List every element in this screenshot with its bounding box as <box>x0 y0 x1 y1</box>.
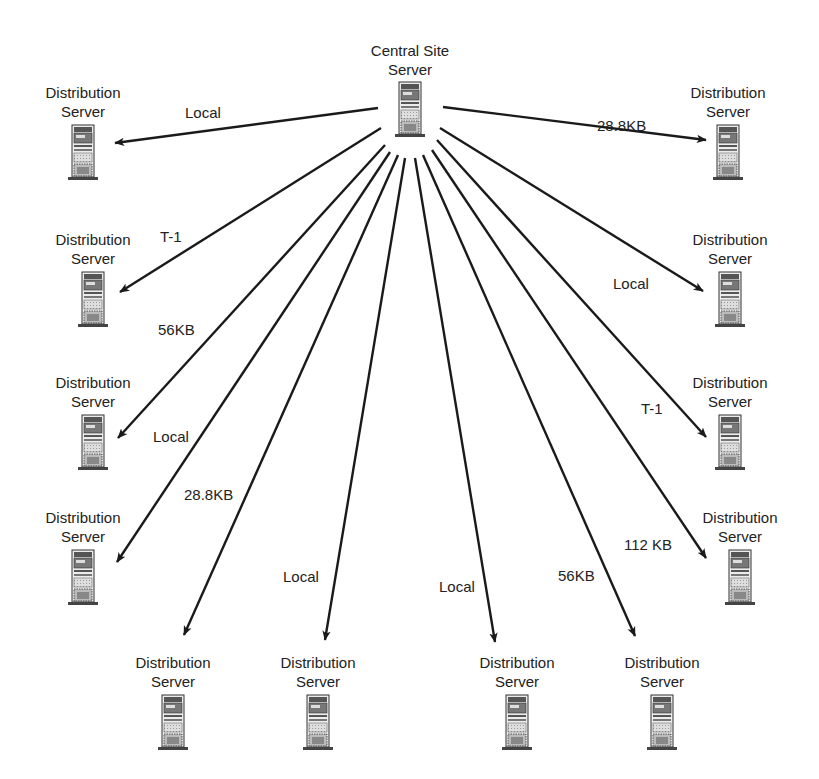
node-label-line2: Server <box>61 528 105 545</box>
node-label-line2: Server <box>151 673 195 690</box>
node-label-line2: Server <box>640 673 684 690</box>
server-tower-icon <box>68 125 98 180</box>
link-speed-label: Local <box>153 428 189 445</box>
node-label-line1: Distribution <box>692 374 767 391</box>
distribution-server-ds-bottom-2[interactable]: DistributionServer <box>280 654 355 750</box>
node-label-line1: Distribution <box>45 509 120 526</box>
link-arrow-ds-top-right <box>443 107 706 140</box>
network-diagram: Local28.8KBT-156KBLocal28.8KBLocalLocal5… <box>0 0 819 779</box>
server-tower-icon <box>502 695 532 750</box>
server-tower-icon <box>158 695 188 750</box>
server-tower-icon <box>303 695 333 750</box>
node-label-line2: Server <box>708 393 752 410</box>
link-label-layer: Local28.8KBT-156KBLocal28.8KBLocalLocal5… <box>153 104 672 595</box>
link-arrow-ds-right-4 <box>432 150 706 558</box>
node-label-line1: Distribution <box>55 374 130 391</box>
node-label-line1: Distribution <box>692 231 767 248</box>
distribution-server-ds-right-3[interactable]: DistributionServer <box>692 374 767 470</box>
server-tower-icon <box>715 415 745 470</box>
node-label-line2: Server <box>71 250 115 267</box>
link-speed-label: 56KB <box>158 321 195 338</box>
node-label-line2: Server <box>71 393 115 410</box>
node-label-line1: Distribution <box>45 84 120 101</box>
node-label-line1: Distribution <box>280 654 355 671</box>
distribution-server-ds-right-4[interactable]: DistributionServer <box>702 509 777 605</box>
link-arrow-ds-left-3 <box>118 145 385 438</box>
server-tower-icon <box>68 550 98 605</box>
central-site-server[interactable]: Central Site Server <box>371 42 449 137</box>
link-speed-label: T-1 <box>641 400 663 417</box>
server-tower-icon <box>725 550 755 605</box>
node-label-line2: Server <box>708 250 752 267</box>
link-speed-label: Local <box>185 104 221 121</box>
link-arrow-ds-left-2 <box>120 128 381 292</box>
distribution-server-ds-left-4[interactable]: DistributionServer <box>45 509 120 605</box>
link-arrow-ds-right-3 <box>437 140 706 437</box>
node-label-line2: Server <box>61 103 105 120</box>
node-label-line2: Server <box>718 528 762 545</box>
link-speed-label: Local <box>439 578 475 595</box>
hub-label-line2: Server <box>388 61 432 78</box>
distribution-server-ds-bottom-3[interactable]: DistributionServer <box>479 654 554 750</box>
link-speed-label: Local <box>283 568 319 585</box>
node-label-line1: Distribution <box>702 509 777 526</box>
link-arrow-ds-right-2 <box>440 128 703 291</box>
link-speed-label: 56KB <box>558 567 595 584</box>
node-label-line1: Distribution <box>624 654 699 671</box>
node-label-line1: Distribution <box>479 654 554 671</box>
node-label-line1: Distribution <box>690 84 765 101</box>
distribution-server-ds-top-right[interactable]: DistributionServer <box>690 84 765 180</box>
link-layer <box>115 107 706 642</box>
node-label-line2: Server <box>495 673 539 690</box>
link-speed-label: 112 KB <box>624 536 672 553</box>
node-label-line1: Distribution <box>55 231 130 248</box>
server-tower-icon <box>715 272 745 327</box>
link-speed-label: T-1 <box>160 228 182 245</box>
link-speed-label: 28.8KB <box>597 117 646 134</box>
distribution-server-ds-left-2[interactable]: DistributionServer <box>55 231 130 327</box>
link-arrow-ds-bottom-3 <box>415 158 495 642</box>
distribution-server-ds-right-2[interactable]: DistributionServer <box>692 231 767 327</box>
link-speed-label: 28.8KB <box>184 486 233 503</box>
node-label-line2: Server <box>296 673 340 690</box>
distribution-server-ds-bottom-4[interactable]: DistributionServer <box>624 654 699 750</box>
distribution-server-ds-left-3[interactable]: DistributionServer <box>55 374 130 470</box>
server-tower-icon <box>78 272 108 327</box>
distribution-server-ds-bottom-1[interactable]: DistributionServer <box>135 654 210 750</box>
distribution-server-ds-top-left[interactable]: DistributionServer <box>45 84 120 180</box>
server-tower-icon <box>713 125 743 180</box>
hub-label-line1: Central Site <box>371 42 449 59</box>
server-tower-icon <box>395 82 425 137</box>
distribution-server-layer: DistributionServerDistributionServerDist… <box>45 84 777 750</box>
link-arrow-ds-top-left <box>115 108 378 143</box>
server-tower-icon <box>78 415 108 470</box>
node-label-line2: Server <box>706 103 750 120</box>
link-speed-label: Local <box>613 275 649 292</box>
server-tower-icon <box>647 695 677 750</box>
node-label-line1: Distribution <box>135 654 210 671</box>
